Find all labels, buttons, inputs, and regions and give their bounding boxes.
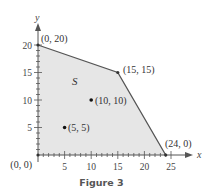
point-10-10 [89, 98, 93, 102]
x-tick-15: 15 [113, 162, 123, 172]
label-10-10: (10, 10) [95, 95, 127, 107]
label-0-20: (0, 20) [41, 33, 68, 45]
y-tick-10: 10 [23, 96, 33, 106]
x-axis-arrow-icon [185, 152, 193, 158]
vertex-15-15 [116, 71, 119, 74]
x-axis-label: x [196, 149, 202, 160]
x-tick-5: 5 [62, 162, 67, 172]
point-5-5 [63, 126, 67, 130]
vertex-0-20 [36, 43, 39, 46]
y-tick-15: 15 [23, 68, 33, 78]
x-tick-20: 20 [140, 162, 150, 172]
label-0-0: (0, 0) [10, 159, 32, 171]
x-tick-10: 10 [86, 162, 96, 172]
vertex-0-0 [36, 153, 39, 156]
label-15-15: (15, 15) [123, 64, 155, 76]
x-tick-25: 25 [166, 162, 176, 172]
y-tick-5: 5 [27, 123, 32, 133]
label-5-5: (5, 5) [68, 122, 90, 134]
feasible-region-chart: 5 10 15 20 25 5 10 15 20 x y (0, 20) (15… [0, 0, 203, 194]
y-axis-arrow-icon [35, 23, 41, 31]
figure-caption: Figure 3 [0, 177, 203, 188]
region-label-s: S [72, 75, 78, 87]
y-tick-20: 20 [23, 41, 33, 51]
vertex-24-0 [164, 153, 167, 156]
label-24-0: (24, 0) [165, 138, 192, 150]
y-axis-label: y [34, 12, 40, 23]
